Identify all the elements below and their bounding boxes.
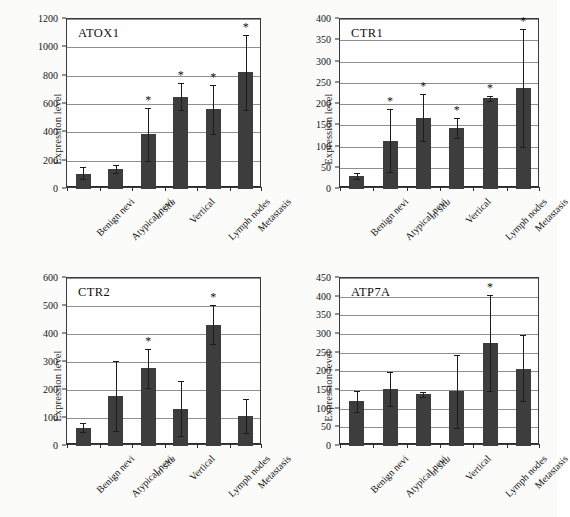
bar <box>173 97 188 189</box>
plot-area: **** <box>66 18 261 188</box>
error-bar <box>390 109 391 173</box>
chart-panel-ctr2: Expression level 0100200300400500600 ** … <box>0 257 278 515</box>
error-bar-cap-lower <box>80 432 86 433</box>
error-bar-cap-lower <box>487 101 493 102</box>
error-bar <box>116 165 117 174</box>
y-tick-label: 0 <box>326 440 331 451</box>
error-bar-cap-lower <box>387 172 393 173</box>
x-tick-mark <box>67 187 68 191</box>
y-tick-label: 0 <box>326 183 331 194</box>
y-tick-label: 450 <box>316 272 331 283</box>
error-bar <box>523 29 524 147</box>
error-bar-cap-lower <box>387 406 393 407</box>
gridline <box>340 371 538 372</box>
significance-marker: * <box>145 97 151 103</box>
error-bar <box>246 399 247 433</box>
error-bar-cap-lower <box>243 110 249 111</box>
error-bar-cap-lower <box>520 401 526 402</box>
error-bar-cap-lower <box>210 344 216 345</box>
gridline <box>67 390 260 391</box>
gridline <box>340 315 538 316</box>
error-bar-cap-upper <box>387 109 393 110</box>
error-bar <box>213 85 214 134</box>
y-tick-label: 1200 <box>38 13 58 24</box>
gridline <box>67 104 260 105</box>
panel-title: CTR1 <box>351 26 383 41</box>
error-bar <box>457 118 458 138</box>
y-tick-label: 300 <box>316 328 331 339</box>
x-tick-mark <box>340 444 341 448</box>
gridline <box>67 334 260 335</box>
error-bar-cap-upper <box>520 335 526 336</box>
y-tick-label: 400 <box>316 290 331 301</box>
error-bar-cap-lower <box>354 412 360 413</box>
y-tick-label: 100 <box>316 140 331 151</box>
error-bar-cap-upper <box>420 392 426 393</box>
gridline <box>340 125 538 126</box>
x-axis-category-label: Vertical <box>463 453 493 483</box>
y-tick-label: 150 <box>316 119 331 130</box>
x-axis-category-label: in situ <box>152 453 177 478</box>
x-tick-mark <box>165 187 166 191</box>
gridline <box>67 161 260 162</box>
y-tick-label: 600 <box>43 272 58 283</box>
x-tick-mark <box>373 187 374 191</box>
gridline <box>67 418 260 419</box>
y-axis-ticks: 0100200300400500600 <box>30 277 62 445</box>
error-bar-cap-upper <box>80 423 86 424</box>
x-tick-mark <box>539 187 540 191</box>
error-bar-cap-lower <box>354 179 360 180</box>
error-bar-cap-lower <box>113 431 119 432</box>
error-bar <box>390 372 391 406</box>
gridline <box>67 19 260 20</box>
x-axis-line <box>67 186 260 187</box>
gridline <box>340 19 538 20</box>
gridline <box>67 47 260 48</box>
error-bar-cap-lower <box>520 147 526 148</box>
x-tick-mark <box>100 444 101 448</box>
x-tick-mark <box>539 444 540 448</box>
significance-marker: * <box>210 294 216 300</box>
y-tick-label: 400 <box>316 13 331 24</box>
error-bar-cap-upper <box>454 355 460 356</box>
error-bar-cap-upper <box>178 381 184 382</box>
significance-marker: * <box>243 24 249 30</box>
error-bar-cap-lower <box>145 161 151 162</box>
error-bar-cap-upper <box>243 399 249 400</box>
gridline <box>340 83 538 84</box>
x-tick-mark <box>67 444 68 448</box>
x-tick-mark <box>197 187 198 191</box>
gridline <box>340 353 538 354</box>
y-tick-label: 0 <box>53 440 58 451</box>
error-bar-cap-lower <box>243 433 249 434</box>
y-tick-label: 1000 <box>38 41 58 52</box>
error-bar-cap-lower <box>145 388 151 389</box>
y-axis-ticks: 050100150200250300350400 <box>303 18 335 188</box>
error-bar-cap-upper <box>145 108 151 109</box>
gridline <box>340 427 538 428</box>
error-bar-cap-upper <box>210 305 216 306</box>
error-bar-cap-lower <box>178 436 184 437</box>
error-bar <box>213 305 214 344</box>
x-tick-mark <box>373 444 374 448</box>
error-bar-cap-lower <box>420 141 426 142</box>
x-tick-mark <box>507 187 508 191</box>
error-bar-cap-upper <box>487 96 493 97</box>
y-tick-label: 250 <box>316 76 331 87</box>
error-bar-cap-upper <box>354 391 360 392</box>
error-bar <box>490 295 491 391</box>
y-tick-label: 50 <box>321 161 331 172</box>
error-bar <box>246 35 247 110</box>
x-tick-mark <box>132 444 133 448</box>
y-tick-label: 200 <box>316 365 331 376</box>
significance-marker: * <box>420 83 426 89</box>
x-tick-mark <box>132 187 133 191</box>
y-tick-label: 350 <box>316 34 331 45</box>
error-bar-cap-upper <box>178 83 184 84</box>
significance-marker: * <box>454 107 460 113</box>
x-tick-mark <box>407 187 408 191</box>
error-bar-cap-lower <box>113 173 119 174</box>
bar <box>483 98 498 189</box>
x-tick-mark <box>473 444 474 448</box>
error-bar <box>116 361 117 431</box>
